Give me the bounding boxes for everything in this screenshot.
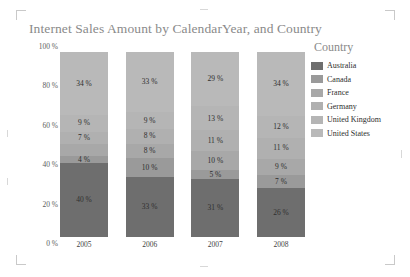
bar-segment[interactable]: 13 % [191, 106, 239, 130]
bar-segment-label: 5 % [209, 171, 221, 179]
bar-stack: 29 %13 %11 %10 %5 %31 % [191, 52, 239, 237]
bar-segment[interactable]: 11 % [191, 130, 239, 151]
x-axis-tick: 2008 [257, 240, 305, 254]
bars-row: 34 %9 %7 %4 %40 %33 %9 %8 %8 %10 %33 %29… [60, 52, 305, 237]
legend-label: Australia [327, 61, 356, 70]
x-axis: 2005200620072008 [60, 240, 305, 254]
legend-item[interactable]: Canada [311, 73, 406, 86]
x-axis-tick: 2005 [60, 240, 108, 254]
bar-segment[interactable]: 11 % [257, 138, 305, 159]
bar-segment[interactable]: 12 % [257, 116, 305, 138]
legend-item[interactable]: France [311, 86, 406, 99]
bar-segment[interactable]: 9 % [126, 112, 174, 128]
bar-column[interactable]: 33 %9 %8 %8 %10 %33 % [126, 52, 174, 237]
x-axis-tick: 2007 [191, 240, 239, 254]
bar-segment-label: 33 % [142, 78, 158, 86]
bar-segment[interactable]: 10 % [126, 158, 174, 176]
bar-segment[interactable]: 34 % [257, 52, 305, 116]
chart-title: Internet Sales Amount by CalendarYear, a… [29, 21, 322, 37]
bar-stack: 33 %9 %8 %8 %10 %33 % [126, 52, 174, 237]
bar-segment-label: 10 % [142, 164, 158, 172]
bar-segment[interactable]: 40 % [60, 163, 108, 237]
legend-items: AustraliaCanadaFranceGermanyUnited Kingd… [311, 59, 406, 140]
bar-segment[interactable]: 4 % [60, 156, 108, 163]
legend-label: Canada [327, 75, 351, 84]
legend-swatch [311, 129, 323, 137]
legend-label: Germany [327, 102, 357, 111]
bar-segment-label: 34 % [76, 80, 92, 88]
chart-page: Internet Sales Amount by CalendarYear, a… [0, 0, 410, 277]
bar-segment[interactable]: 7 % [60, 132, 108, 145]
bar-segment-label: 10 % [208, 157, 224, 165]
crop-mark-top-right [385, 10, 395, 20]
legend-label: France [327, 88, 349, 97]
bar-segment-label: 9 % [275, 163, 287, 171]
legend: Country AustraliaCanadaFranceGermanyUnit… [311, 40, 406, 140]
bar-segment[interactable]: 9 % [60, 115, 108, 132]
bar-segment[interactable]: 26 % [257, 188, 305, 237]
y-axis-tick: 100 % [39, 42, 58, 51]
bar-segment-label: 11 % [273, 144, 288, 152]
legend-title: Country [311, 40, 406, 55]
edge-tick-bottom [200, 266, 208, 267]
legend-label: United Kingdom [327, 115, 381, 124]
bar-segment-label: 7 % [78, 134, 90, 142]
bar-segment-label: 26 % [273, 209, 289, 217]
plot-area: 34 %9 %7 %4 %40 %33 %9 %8 %8 %10 %33 %29… [60, 52, 305, 237]
bar-segment[interactable]: 8 % [126, 144, 174, 159]
bar-segment-label: 4 % [78, 156, 90, 164]
legend-swatch [311, 116, 323, 124]
bar-segment[interactable]: 34 % [60, 52, 108, 115]
y-axis-tick: 80 % [42, 81, 58, 90]
y-axis-tick: 0 % [46, 239, 58, 248]
bar-segment[interactable]: 8 % [126, 129, 174, 144]
crop-mark-top-left [16, 10, 26, 20]
bar-segment-label: 8 % [144, 132, 156, 140]
bar-segment-label: 11 % [208, 137, 223, 145]
bar-segment-label: 8 % [144, 147, 156, 155]
y-axis: 0 %20 %40 %60 %80 %100 % [24, 46, 58, 243]
bar-segment-label: 9 % [144, 117, 156, 125]
bar-segment-label: 7 % [275, 178, 287, 186]
bar-segment-label: 34 % [273, 80, 289, 88]
bar-segment-label: 29 % [208, 75, 224, 83]
bar-segment-label: 40 % [76, 196, 92, 204]
bar-segment[interactable]: 33 % [126, 52, 174, 112]
legend-item[interactable]: United Kingdom [311, 113, 406, 126]
crop-mark-bottom-right [385, 255, 395, 265]
legend-swatch [311, 89, 323, 97]
y-axis-tick: 60 % [42, 120, 58, 129]
bar-column[interactable]: 34 %12 %11 %9 %7 %26 % [257, 52, 305, 237]
bar-stack: 34 %12 %11 %9 %7 %26 % [257, 52, 305, 237]
bar-column[interactable]: 29 %13 %11 %10 %5 %31 % [191, 52, 239, 237]
legend-swatch [311, 62, 323, 70]
edge-tick-top [200, 9, 208, 10]
bar-segment-label: 9 % [78, 119, 90, 127]
edge-tick-left-upper [7, 130, 8, 137]
bar-segment[interactable]: 9 % [257, 159, 305, 176]
bar-segment-label: 12 % [273, 123, 289, 131]
bar-segment[interactable]: 33 % [126, 177, 174, 237]
bar-segment[interactable]: 31 % [191, 179, 239, 237]
legend-label: United States [327, 129, 370, 138]
legend-item[interactable]: Australia [311, 59, 406, 72]
bar-segment-label: 31 % [208, 204, 224, 212]
legend-item[interactable]: United States [311, 127, 406, 140]
bar-segment[interactable]: 10 % [191, 151, 239, 170]
legend-swatch [311, 102, 323, 110]
bar-segment[interactable]: 5 % [191, 170, 239, 179]
bar-column[interactable]: 34 %9 %7 %4 %40 % [60, 52, 108, 237]
bar-segment[interactable] [60, 144, 108, 155]
x-axis-tick: 2006 [126, 240, 174, 254]
legend-swatch [311, 75, 323, 83]
legend-item[interactable]: Germany [311, 100, 406, 113]
bar-segment-label: 13 % [208, 115, 224, 123]
edge-tick-left-lower [7, 178, 8, 185]
bar-stack: 34 %9 %7 %4 %40 % [60, 52, 108, 237]
y-axis-tick: 40 % [42, 160, 58, 169]
edge-tick-right [401, 150, 402, 158]
bar-segment[interactable]: 7 % [257, 175, 305, 188]
bar-segment-label: 33 % [142, 203, 158, 211]
bar-segment[interactable]: 29 % [191, 52, 239, 106]
y-axis-tick: 20 % [42, 199, 58, 208]
